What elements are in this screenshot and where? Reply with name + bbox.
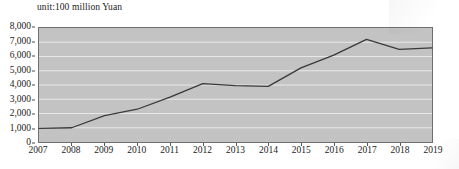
y-tick-mark (32, 70, 35, 71)
y-tick-label: 5,000 (10, 66, 31, 76)
line-chart: unit:100 million Yuan 01,0002,0003,0004,… (0, 0, 459, 169)
x-tick-label: 2010 (127, 146, 146, 156)
y-tick-label: 1,000 (10, 124, 31, 134)
x-tick-label: 2013 (226, 146, 245, 156)
y-tick-label: 2,000 (10, 109, 31, 119)
x-tick-label: 2017 (358, 146, 377, 156)
y-tick-mark (32, 41, 35, 42)
y-tick-label: 6,000 (10, 51, 31, 61)
x-tick-label: 2015 (292, 146, 311, 156)
y-tick-label: 7,000 (10, 37, 31, 47)
x-tick-label: 2009 (94, 146, 113, 156)
plot-area (38, 27, 433, 143)
y-tick-mark (32, 99, 35, 100)
x-tick-label: 2016 (325, 146, 344, 156)
y-tick-label: 3,000 (10, 95, 31, 105)
x-tick-label: 2019 (424, 146, 443, 156)
x-tick-label: 2008 (61, 146, 80, 156)
x-tick-label: 2007 (29, 146, 48, 156)
y-tick-mark (32, 56, 35, 57)
x-tick-label: 2014 (259, 146, 278, 156)
chart-unit-caption: unit:100 million Yuan (37, 0, 122, 14)
x-tick-label: 2012 (193, 146, 212, 156)
data-series-line (39, 28, 432, 142)
series-polyline (39, 39, 432, 128)
x-axis: 2007200820092010201120122013201420152016… (38, 146, 433, 164)
y-tick-mark (32, 27, 35, 28)
y-tick-label: 4,000 (10, 80, 31, 90)
y-tick-mark (32, 128, 35, 129)
y-tick-mark (32, 114, 35, 115)
y-tick-mark (32, 143, 35, 144)
y-tick-label: 8,000 (10, 22, 31, 32)
x-tick-label: 2018 (391, 146, 410, 156)
y-axis: 01,0002,0003,0004,0005,0006,0007,0008,00… (0, 27, 35, 143)
y-tick-mark (32, 85, 35, 86)
x-tick-label: 2011 (160, 146, 179, 156)
